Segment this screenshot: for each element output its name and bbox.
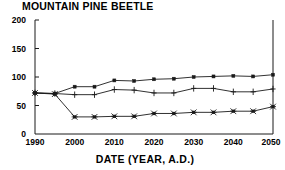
data-point-marker [171,90,176,96]
x-tick-2010: 2010 [105,137,124,147]
data-point-marker [151,111,157,117]
data-point-marker [72,114,78,120]
y-tick-50: 50 [17,101,27,111]
data-point-marker [131,113,137,119]
data-point-marker [112,86,117,92]
data-point-marker [251,89,256,95]
data-point-marker [211,85,216,91]
data-point-marker [153,78,156,81]
data-point-marker [272,73,275,76]
data-point-marker [73,85,76,88]
data-point-marker [250,108,256,114]
x-tick-2050: 2050 [262,137,281,147]
data-point-marker [72,91,77,97]
data-point-marker [212,75,215,78]
x-tick-2040: 2040 [224,137,243,147]
data-point-marker [133,79,136,82]
data-point-marker [172,77,175,80]
y-tick-100: 100 [12,72,26,82]
data-point-marker [192,76,195,79]
data-point-marker [93,85,96,88]
data-point-marker [230,108,236,114]
data-point-marker [132,87,137,93]
data-point-marker [171,111,177,117]
x-tick-2020: 2020 [145,137,164,147]
data-point-marker [92,91,97,97]
data-point-marker [113,79,116,82]
x-tick-1990: 1990 [26,137,45,147]
chart-figure: MOUNTAIN PINE BEETLE 200 150 100 50 0 19… [0,0,285,170]
y-tick-150: 150 [12,44,26,54]
chart-svg: MOUNTAIN PINE BEETLE 200 150 100 50 0 19… [0,0,285,170]
series-layer [32,73,276,120]
y-tick-200: 200 [12,15,26,25]
data-point-marker [191,85,196,91]
data-point-marker [270,86,275,92]
data-point-marker [231,89,236,95]
x-tick-2030: 2030 [184,137,203,147]
chart-title: MOUNTAIN PINE BEETLE [22,0,154,12]
data-point-marker [111,113,117,119]
x-tick-2000: 2000 [65,137,84,147]
series-middle [32,85,275,98]
data-point-marker [252,75,255,78]
data-point-marker [232,74,235,77]
data-point-marker [151,90,156,96]
data-point-marker [191,109,197,115]
data-point-marker [92,114,98,120]
data-point-marker [211,109,217,115]
x-axis-label: DATE (YEAR, A.D.) [96,153,194,165]
